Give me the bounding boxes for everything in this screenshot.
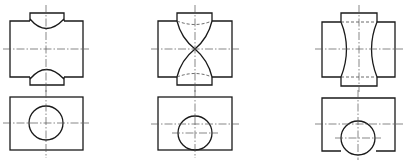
set-2-front-view — [151, 5, 239, 92]
set-1 — [3, 5, 89, 158]
set-3-front-view — [315, 5, 403, 92]
set-1-front-view — [3, 5, 89, 92]
set-3 — [315, 5, 403, 160]
set-1-top-view — [3, 90, 89, 158]
set-2 — [151, 5, 239, 158]
set-2-top-view — [151, 90, 239, 158]
drawing-canvas — [0, 0, 406, 166]
set-3-top-view — [315, 90, 403, 160]
